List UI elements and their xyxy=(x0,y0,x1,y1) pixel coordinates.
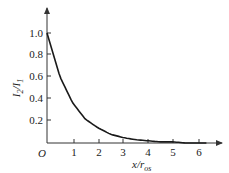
y-tick-label: 1.0 xyxy=(29,27,43,39)
decay-chart: 1.0 0.8 0.6 0.4 0.2 1 2 3 4 5 6 O I2/I1 … xyxy=(0,0,229,173)
y-tick-label: 0.4 xyxy=(29,92,43,104)
y-tick-label: 0.6 xyxy=(29,70,43,82)
y-tick-labels: 1.0 0.8 0.6 0.4 0.2 xyxy=(29,27,43,126)
x-tick-label: 1 xyxy=(71,146,77,158)
x-tick-label: 6 xyxy=(196,146,202,158)
x-tick-label: 4 xyxy=(145,146,151,158)
y-tick-label: 0.8 xyxy=(29,48,43,60)
x-tick-labels: 1 2 3 4 5 6 xyxy=(71,146,202,158)
y-tick-label: 0.2 xyxy=(29,114,43,126)
decay-curve xyxy=(47,33,206,143)
svg-text:I2/I1: I2/I1 xyxy=(10,79,25,98)
x-label-main: x/r xyxy=(131,158,145,170)
x-tick-label: 2 xyxy=(96,146,102,158)
x-tick-label: 5 xyxy=(170,146,176,158)
x-axis-label: x/ros xyxy=(131,158,151,173)
y-axis-label: I2/I1 xyxy=(10,79,25,98)
y-label-sub2: 1 xyxy=(16,79,25,83)
x-label-sub: os xyxy=(144,164,151,173)
x-tick-label: 3 xyxy=(120,146,126,158)
origin-label: O xyxy=(38,147,46,159)
